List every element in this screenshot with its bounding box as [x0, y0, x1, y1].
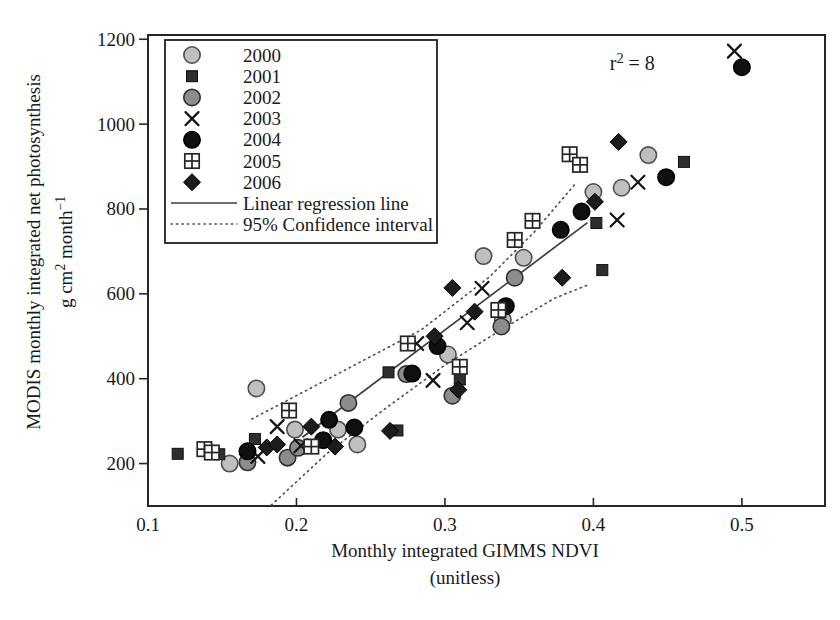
square-marker — [383, 367, 394, 378]
data-point-2006 — [610, 133, 627, 150]
data-point-2003 — [271, 420, 284, 433]
data-point-2005 — [282, 403, 296, 417]
data-point-2002 — [340, 395, 356, 411]
data-point-2004 — [346, 419, 362, 435]
square-marker — [249, 433, 260, 444]
circle-marker — [346, 419, 362, 435]
diamond-marker — [610, 133, 627, 150]
legend-label-2004: 2004 — [243, 129, 282, 150]
y-tick-label: 1000 — [97, 114, 135, 135]
data-point-2001 — [591, 217, 602, 228]
data-point-2005 — [573, 158, 587, 172]
diamond-marker — [444, 279, 461, 296]
legend-label-2000: 2000 — [243, 45, 281, 66]
square-marker — [187, 71, 198, 82]
data-point-2003 — [728, 45, 741, 58]
legend-label-2005: 2005 — [243, 151, 281, 172]
ci-lower-line — [271, 285, 589, 506]
data-point-2004 — [321, 412, 337, 428]
circle-marker — [475, 248, 491, 264]
legend-label-2002: 2002 — [243, 87, 281, 108]
legend-label-2006: 2006 — [243, 172, 281, 193]
circle-marker — [658, 169, 674, 185]
legend-marker-2002 — [184, 89, 200, 105]
x-tick-label: 0.4 — [582, 514, 606, 535]
data-point-2001 — [597, 265, 608, 276]
circle-marker — [349, 436, 365, 452]
legend-marker-2004 — [184, 132, 200, 148]
circle-marker — [613, 180, 629, 196]
circle-marker — [248, 380, 264, 396]
data-point-2003 — [631, 176, 644, 189]
data-point-2000 — [349, 436, 365, 452]
data-point-2005 — [205, 445, 219, 459]
y-tick-label: 200 — [107, 453, 136, 474]
circle-marker — [507, 270, 523, 286]
data-point-2006 — [466, 303, 483, 320]
data-point-2005 — [491, 303, 505, 317]
data-point-2005 — [525, 214, 539, 228]
diamond-marker — [466, 303, 483, 320]
diamond-marker — [554, 269, 571, 286]
y-axis-units: g cm2 month−1 — [53, 196, 76, 308]
circle-marker — [553, 222, 569, 238]
x-axis-title: Monthly integrated GIMMS NDVI — [331, 540, 599, 561]
data-point-2004 — [553, 222, 569, 238]
data-point-2000 — [287, 421, 303, 437]
data-point-2005 — [304, 439, 318, 453]
circle-marker — [184, 89, 200, 105]
circle-marker — [239, 443, 255, 459]
legend-label-2003: 2003 — [243, 108, 281, 129]
data-point-2000 — [475, 248, 491, 264]
data-point-2005 — [453, 360, 467, 374]
data-point-2004 — [734, 59, 750, 75]
legend-label-regression: Linear regression line — [243, 193, 409, 214]
data-point-2005 — [508, 233, 522, 247]
y-tick-label: 400 — [107, 368, 136, 389]
y-axis-title: MODIS monthly integrated net photosynthe… — [23, 74, 44, 430]
circle-marker — [184, 47, 200, 63]
circle-marker — [287, 421, 303, 437]
data-point-2003 — [461, 316, 474, 329]
circle-marker — [184, 132, 200, 148]
legend-label-ci: 95% Confidence interval — [243, 214, 433, 235]
data-point-2004 — [658, 169, 674, 185]
circle-marker — [404, 365, 420, 381]
data-point-2001 — [172, 448, 183, 459]
square-marker — [678, 156, 689, 167]
data-point-2004 — [239, 443, 255, 459]
circle-marker — [493, 318, 509, 334]
data-point-2002 — [507, 270, 523, 286]
legend-label-2001: 2001 — [243, 66, 281, 87]
y-tick-label: 1200 — [97, 29, 135, 50]
data-point-2006 — [303, 418, 320, 435]
x-tick-label: 0.5 — [730, 514, 754, 535]
square-marker — [591, 217, 602, 228]
square-marker — [172, 448, 183, 459]
data-point-2003 — [427, 374, 440, 387]
square-marker — [597, 265, 608, 276]
data-point-2001 — [678, 156, 689, 167]
data-point-2000 — [515, 250, 531, 266]
data-point-2006 — [554, 269, 571, 286]
data-point-2004 — [404, 365, 420, 381]
data-point-2005 — [401, 336, 415, 350]
circle-marker — [573, 203, 589, 219]
circle-marker — [340, 395, 356, 411]
data-point-2006 — [444, 279, 461, 296]
data-point-2001 — [249, 433, 260, 444]
x-tick-label: 0.3 — [433, 514, 457, 535]
legend-marker-2000 — [184, 47, 200, 63]
figure-page: 0.10.20.30.40.520040060080010001200Month… — [0, 0, 840, 620]
legend-marker-2001 — [187, 71, 198, 82]
y-tick-label: 600 — [107, 283, 136, 304]
diamond-marker — [303, 418, 320, 435]
scatter-chart: 0.10.20.30.40.520040060080010001200Month… — [0, 0, 840, 620]
data-point-2000 — [248, 380, 264, 396]
circle-marker — [515, 250, 531, 266]
data-point-2001 — [383, 367, 394, 378]
x-tick-label: 0.2 — [285, 514, 309, 535]
y-tick-label: 800 — [107, 198, 136, 219]
data-point-2003 — [476, 282, 489, 295]
legend: 2000200120022003200420052006Linear regre… — [165, 40, 437, 243]
